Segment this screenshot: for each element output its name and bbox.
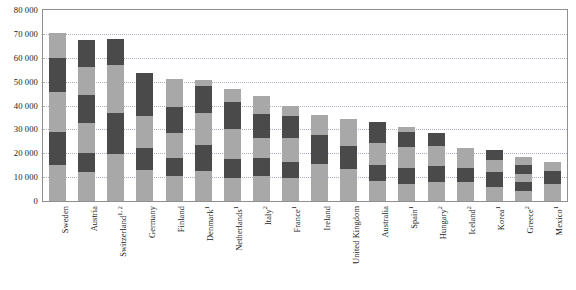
bar-segment — [195, 80, 212, 86]
bar-segment — [428, 133, 445, 146]
x-tick-label: Korea1 — [497, 206, 506, 230]
bar-segment — [282, 162, 299, 179]
bar-segment — [515, 182, 532, 192]
bar-segment — [49, 92, 66, 131]
bar-segment — [457, 168, 474, 182]
bar-segment — [369, 143, 386, 166]
bar-segment — [195, 113, 212, 145]
y-tick-label: 40 000 — [0, 101, 38, 111]
bar-segment — [78, 67, 95, 94]
bar-united-kingdom — [340, 119, 357, 201]
x-tick-label-text: Iceland — [468, 209, 477, 234]
x-tick-label-text: Hungary — [439, 209, 448, 239]
bar-segment — [457, 148, 474, 167]
bar-italy — [253, 96, 270, 201]
y-axis: 010 00020 00030 00040 00050 00060 00070 … — [0, 0, 38, 212]
bar-iceland — [457, 148, 474, 201]
x-tick-label-note: 1 — [291, 206, 298, 209]
x-axis: SwedenAustriaSwitzerland1, 2GermanyFinla… — [42, 202, 568, 290]
bar-finland — [166, 79, 183, 201]
x-tick-label: Denmark1 — [206, 206, 215, 241]
bar-segment — [49, 165, 66, 201]
bar-segment — [224, 102, 241, 129]
bar-segment — [166, 176, 183, 201]
plot-area — [42, 9, 568, 202]
bar-segment — [311, 164, 328, 201]
bar-france — [282, 106, 299, 202]
bar-segment — [166, 133, 183, 158]
bar-segment — [544, 162, 561, 172]
y-tick-label: 0 — [0, 196, 38, 206]
bar-segment — [311, 135, 328, 164]
bar-segment — [195, 145, 212, 171]
x-tick-label-note: 2 — [465, 206, 472, 209]
x-tick-label-note: 2 — [436, 206, 443, 209]
bar-spain — [398, 127, 415, 201]
bar-segment — [136, 148, 153, 169]
bar-segment — [486, 160, 503, 172]
x-tick-label-text: Sweden — [61, 206, 70, 233]
bar-segment — [49, 132, 66, 165]
x-tick-label-text: Mexico — [555, 209, 564, 235]
x-tick-label-text: Ireland — [323, 206, 332, 230]
bar-segment — [340, 119, 357, 146]
y-tick-label: 70 000 — [0, 29, 38, 39]
x-tick-label-note: 1 — [203, 206, 210, 209]
bar-segment — [369, 165, 386, 181]
bar-segment — [428, 182, 445, 201]
bar-ireland — [311, 115, 328, 201]
bars-layer — [43, 10, 567, 201]
x-tick-label-text: Italy — [264, 209, 273, 225]
bar-korea — [486, 150, 503, 201]
bar-segment — [398, 184, 415, 201]
bar-segment — [369, 122, 386, 142]
bar-segment — [49, 58, 66, 93]
bar-segment — [253, 158, 270, 176]
bar-australia — [369, 122, 386, 201]
x-tick-label: Spain1 — [410, 206, 419, 229]
bar-segment — [486, 150, 503, 161]
x-tick-label-text: Austria — [90, 206, 99, 231]
bar-segment — [224, 159, 241, 178]
bar-segment — [515, 191, 532, 201]
bar-segment — [282, 178, 299, 201]
bar-segment — [398, 127, 415, 132]
bar-segment — [136, 116, 153, 148]
bar-segment — [544, 184, 561, 201]
x-tick-label: Hungary2 — [439, 206, 448, 239]
bar-segment — [282, 116, 299, 137]
bar-segment — [457, 182, 474, 201]
bar-segment — [515, 165, 532, 173]
bar-segment — [136, 73, 153, 116]
bar-segment — [107, 65, 124, 113]
y-tick-label: 80 000 — [0, 5, 38, 15]
bar-hungary — [428, 133, 445, 201]
bar-segment — [107, 39, 124, 65]
x-tick-label-text: United Kingdom — [352, 206, 361, 264]
stacked-bar-chart: 010 00020 00030 00040 00050 00060 00070 … — [0, 0, 576, 290]
x-tick-label: Netherlands1 — [235, 206, 244, 251]
bar-sweden — [49, 33, 66, 201]
x-tick-label-text: France — [293, 209, 302, 232]
bar-segment — [166, 107, 183, 133]
x-tick-label-note: 2 — [524, 206, 531, 209]
x-tick-label-text: Denmark — [206, 209, 215, 241]
bar-segment — [136, 170, 153, 201]
bar-segment — [369, 181, 386, 201]
x-tick-label-text: Finland — [177, 206, 186, 232]
bar-segment — [166, 158, 183, 176]
bar-denmark — [195, 80, 212, 201]
bar-mexico — [544, 162, 561, 201]
bar-segment — [78, 40, 95, 67]
x-tick-label: Ireland — [323, 206, 332, 230]
x-tick-label-text: Netherlands — [235, 209, 244, 251]
bar-netherlands — [224, 89, 241, 201]
x-tick-label-note: 1, 2 — [116, 206, 123, 216]
bar-segment — [253, 114, 270, 138]
bar-segment — [428, 146, 445, 166]
x-tick-label: United Kingdom — [352, 206, 361, 264]
bar-segment — [340, 169, 357, 201]
bar-segment — [107, 154, 124, 201]
bar-segment — [398, 147, 415, 167]
bar-segment — [78, 123, 95, 153]
